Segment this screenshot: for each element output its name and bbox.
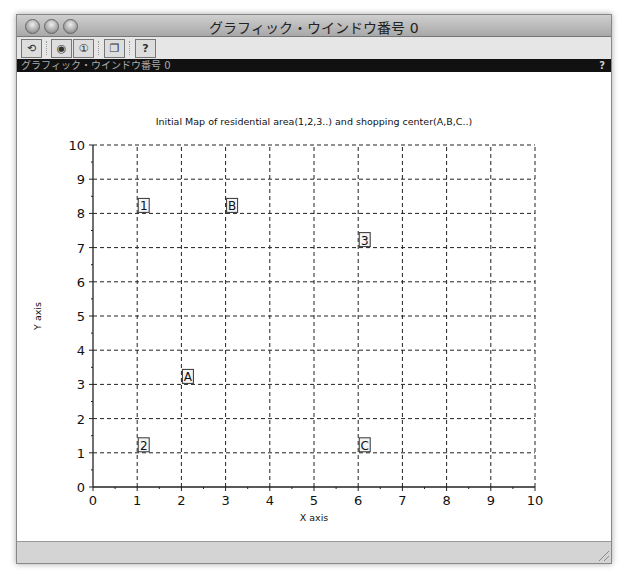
y-tick-label: 4 xyxy=(77,343,85,358)
help-button[interactable]: ? xyxy=(135,39,156,58)
x-tick-label: 1 xyxy=(133,493,141,508)
y-tick-label: 2 xyxy=(77,412,85,427)
y-tick-label: 1 xyxy=(77,446,85,461)
point-label-C: C xyxy=(361,439,369,453)
x-tick-label: 4 xyxy=(266,493,274,508)
x-axis-label: X axis xyxy=(300,512,329,523)
title-bar[interactable]: グラフィック・ウインドウ番号 0 xyxy=(17,15,611,37)
toolbar-separator xyxy=(98,41,100,55)
y-tick-label: 7 xyxy=(77,241,85,256)
y-tick-label: 3 xyxy=(77,377,85,392)
rotate-button[interactable]: ⟲ xyxy=(21,39,42,58)
zoom-in-icon: ◉ xyxy=(57,42,67,55)
gui-windows-button[interactable]: ❐ xyxy=(104,39,125,58)
window-title: グラフィック・ウインドウ番号 0 xyxy=(17,17,611,37)
x-tick-label: 3 xyxy=(221,493,229,508)
x-tick-label: 7 xyxy=(398,493,406,508)
toolbar-separator xyxy=(129,41,131,55)
x-tick-label: 5 xyxy=(310,493,318,508)
plot-area[interactable]: Initial Map of residential area(1,2,3..)… xyxy=(17,73,611,541)
figure-name-label: グラフィック・ウインドウ番号 0 xyxy=(21,59,171,72)
rotate-icon: ⟲ xyxy=(27,42,36,55)
x-tick-label: 6 xyxy=(354,493,362,508)
point-label-A: A xyxy=(184,370,193,384)
x-tick-label: 0 xyxy=(89,493,97,508)
y-tick-label: 6 xyxy=(77,275,85,290)
help-icon: ? xyxy=(142,42,148,55)
point-label-1: 1 xyxy=(140,199,148,213)
x-tick-label: 8 xyxy=(442,493,450,508)
y-tick-label: 9 xyxy=(77,172,85,187)
graphic-window: グラフィック・ウインドウ番号 0 ⟲ ◉ ① ❐ ? グラフィック・ウインドウ番… xyxy=(16,14,612,564)
point-label-3: 3 xyxy=(361,234,369,248)
y-tick-label: 10 xyxy=(68,138,85,153)
figure-name-bar: グラフィック・ウインドウ番号 0 ? xyxy=(17,59,611,72)
chart-title: Initial Map of residential area(1,2,3..)… xyxy=(156,116,472,127)
windows-icon: ❐ xyxy=(110,42,120,55)
point-label-B: B xyxy=(228,199,236,213)
y-tick-label: 5 xyxy=(77,309,85,324)
x-tick-label: 9 xyxy=(487,493,495,508)
toolbar-separator xyxy=(46,41,48,55)
zoom-reset-icon: ① xyxy=(79,42,89,55)
y-tick-label: 0 xyxy=(77,480,85,495)
point-label-2: 2 xyxy=(140,439,148,453)
x-tick-label: 2 xyxy=(177,493,185,508)
zoom-reset-button[interactable]: ① xyxy=(73,39,94,58)
help-question-icon[interactable]: ? xyxy=(599,59,605,72)
toolbar: ⟲ ◉ ① ❐ ? xyxy=(17,37,611,60)
y-axis-label: Y axis xyxy=(32,302,43,331)
zoom-in-button[interactable]: ◉ xyxy=(51,39,72,58)
x-tick-label: 10 xyxy=(527,493,544,508)
resize-grip-icon[interactable] xyxy=(599,551,609,561)
y-tick-label: 8 xyxy=(77,206,85,221)
status-bar xyxy=(17,541,611,563)
